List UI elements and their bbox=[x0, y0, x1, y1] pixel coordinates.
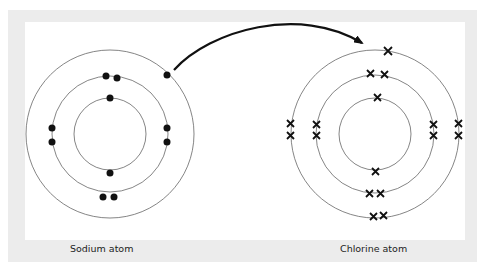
ionic-bond-diagram bbox=[0, 0, 489, 272]
chlorine-shell-1 bbox=[339, 98, 411, 170]
chlorine-atom bbox=[287, 47, 462, 220]
sodium-electrons bbox=[49, 72, 171, 201]
sodium-atom bbox=[26, 50, 194, 218]
chlorine-electrons bbox=[287, 47, 462, 220]
chlorine-shell-2 bbox=[316, 75, 434, 193]
electron-transfer-arrow bbox=[174, 24, 362, 70]
chlorine-atom-label: Chlorine atom bbox=[340, 243, 407, 254]
sodium-shell-1 bbox=[74, 98, 146, 170]
sodium-atom-label: Sodium atom bbox=[70, 243, 133, 254]
